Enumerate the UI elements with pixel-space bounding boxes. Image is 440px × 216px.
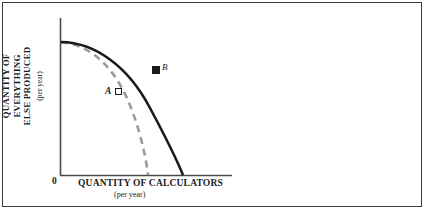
x-axis-label: QUANTITY OF CALCULATORS bbox=[78, 178, 223, 188]
point-a-marker bbox=[115, 88, 122, 95]
origin-label: 0 bbox=[52, 176, 57, 186]
y-axis-label-line1: QUANTITY OF EVERYTHING bbox=[1, 21, 22, 151]
inner-frontier-curve bbox=[61, 43, 148, 176]
point-a-label: A bbox=[105, 86, 111, 96]
point-b-label: B bbox=[162, 62, 168, 72]
point-b-marker bbox=[152, 66, 160, 74]
x-axis-label-sub: (per year) bbox=[114, 190, 145, 199]
y-axis-label: QUANTITY OF EVERYTHING ELSE PRODUCED (pe… bbox=[1, 21, 61, 151]
ppf-chart: QUANTITY OF EVERYTHING ELSE PRODUCED (pe… bbox=[0, 0, 440, 216]
y-axis-label-sub: (per year) bbox=[34, 21, 45, 151]
y-axis-label-line2: ELSE PRODUCED bbox=[22, 21, 33, 151]
